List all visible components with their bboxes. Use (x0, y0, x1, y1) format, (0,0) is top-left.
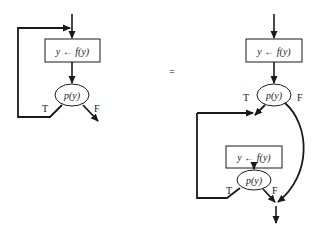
equals-sign: = (169, 66, 175, 77)
left-flowchart (18, 14, 100, 121)
left-true-label: T (42, 103, 48, 114)
right-false1-label: F (297, 92, 303, 103)
true2-loop-back (197, 113, 240, 198)
left-false-label: F (94, 103, 100, 114)
flowchart-diagram: y ← f(y) p(y) T F = y ← f(y) p(y) T F y … (0, 0, 324, 229)
right-true2-label: T (226, 185, 232, 196)
right-test2-text: p(y) (245, 175, 263, 187)
left-assign-text: y ← f(y) (55, 46, 90, 58)
true1-arrow (255, 105, 265, 115)
right-false2-label: F (272, 185, 278, 196)
right-assign1-text: y ← f(y) (256, 46, 291, 58)
right-true1-label: T (243, 92, 249, 103)
right-test1-text: p(y) (265, 90, 283, 102)
right-assign2-text: y ← f(y) (236, 152, 271, 164)
left-test-text: p(y) (63, 90, 81, 102)
